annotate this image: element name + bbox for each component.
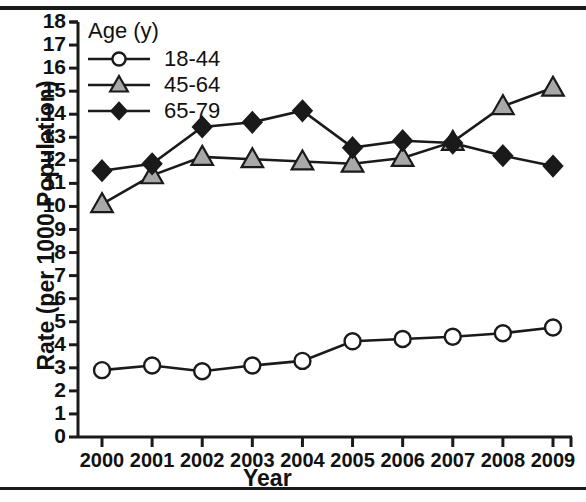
y-axis-title: Rate (per 1000 Population) bbox=[33, 76, 60, 376]
legend-entry-label: 18-44 bbox=[164, 46, 220, 72]
y-tick-label: 18 bbox=[20, 9, 66, 33]
data-point-triangle bbox=[191, 146, 213, 165]
legend: Age (y) 18-4445-6465-79 bbox=[86, 18, 220, 124]
data-point-circle bbox=[545, 319, 561, 335]
data-point-circle bbox=[495, 325, 511, 341]
figure-container: 0123456789101112131415161718 20002001200… bbox=[0, 0, 586, 502]
y-tick-label: 2 bbox=[20, 378, 66, 402]
data-point-circle bbox=[445, 329, 461, 345]
data-point-circle bbox=[294, 353, 310, 369]
legend-title: Age (y) bbox=[88, 18, 220, 44]
legend-entry-label: 65-79 bbox=[164, 98, 220, 124]
data-point-diamond bbox=[293, 101, 311, 121]
data-point-diamond bbox=[393, 131, 411, 151]
data-point-triangle bbox=[91, 193, 113, 212]
legend-entry-18-44[interactable]: 18-44 bbox=[86, 46, 220, 72]
y-tick-label: 1 bbox=[20, 401, 66, 425]
data-point-circle bbox=[244, 358, 260, 374]
legend-marker-sample bbox=[86, 72, 152, 98]
data-point-circle bbox=[94, 362, 110, 378]
series-line bbox=[102, 327, 553, 371]
data-point-diamond bbox=[143, 154, 161, 174]
x-tick-label: 2005 bbox=[325, 449, 381, 472]
x-axis-title: Year bbox=[243, 465, 292, 492]
data-point-circle bbox=[345, 333, 361, 349]
data-point-circle bbox=[194, 363, 210, 379]
x-tick-label: 2001 bbox=[124, 449, 180, 472]
y-tick-label: 0 bbox=[20, 424, 66, 448]
legend-entry-label: 45-64 bbox=[164, 72, 220, 98]
legend-entry-list: 18-4445-6465-79 bbox=[86, 46, 220, 124]
data-point-diamond bbox=[343, 138, 361, 158]
data-point-diamond bbox=[494, 146, 512, 166]
x-tick-label: 2008 bbox=[475, 449, 531, 472]
data-point-diamond bbox=[243, 112, 261, 132]
legend-entry-45-64[interactable]: 45-64 bbox=[86, 72, 220, 98]
data-point-triangle bbox=[542, 77, 564, 96]
x-tick-label: 2007 bbox=[425, 449, 481, 472]
data-point-circle bbox=[112, 52, 125, 65]
legend-entry-65-79[interactable]: 65-79 bbox=[86, 98, 220, 124]
legend-marker-sample bbox=[86, 46, 152, 72]
y-tick-label: 17 bbox=[20, 32, 66, 56]
series-18-44 bbox=[94, 319, 561, 379]
x-tick-label: 2009 bbox=[525, 449, 581, 472]
x-tick-label: 2002 bbox=[174, 449, 230, 472]
data-point-circle bbox=[395, 331, 411, 347]
data-point-diamond bbox=[111, 103, 126, 119]
data-point-diamond bbox=[544, 156, 562, 176]
x-tick-label: 2000 bbox=[74, 449, 130, 472]
data-point-diamond bbox=[93, 161, 111, 181]
x-tick-label: 2006 bbox=[375, 449, 431, 472]
data-point-circle bbox=[144, 358, 160, 374]
legend-marker-sample bbox=[86, 98, 152, 124]
